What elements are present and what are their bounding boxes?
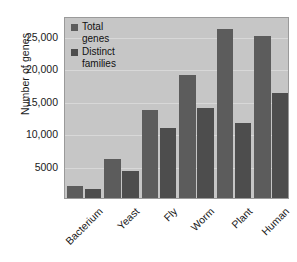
- bar: [197, 108, 214, 198]
- legend-entry: Distinct families: [71, 46, 116, 69]
- bar: [235, 123, 252, 198]
- x-tick-label-fly: Fly: [161, 205, 179, 223]
- bar: [179, 75, 196, 199]
- bar-group: [215, 18, 253, 198]
- bar: [160, 128, 177, 198]
- plot-area: Total genesDistinct families: [64, 17, 289, 199]
- y-tick-label-10000: 10,000: [26, 128, 58, 140]
- legend-label: Total genes: [82, 21, 109, 44]
- bar: [217, 29, 234, 198]
- x-tick-label-yeast: Yeast: [115, 205, 142, 232]
- bar-group: [140, 18, 178, 198]
- legend-swatch-icon: [71, 24, 78, 31]
- bar: [85, 189, 102, 198]
- legend-swatch-icon: [71, 49, 78, 56]
- bar: [67, 186, 84, 198]
- y-tick-label-5000: 5000: [35, 161, 58, 173]
- x-tick-label-plant: Plant: [229, 205, 254, 230]
- bar: [122, 171, 139, 198]
- bar-group: [253, 18, 290, 198]
- bar: [142, 110, 159, 198]
- x-tick-label-worm: Worm: [188, 205, 216, 233]
- bar: [104, 159, 121, 198]
- x-axis-tick-labels: BacteriumYeastFlyWormPlantHuman: [64, 199, 289, 262]
- y-axis-tick-labels: 500010,00015,00020,00025,000: [0, 0, 62, 262]
- chart-legend: Total genesDistinct families: [71, 21, 116, 71]
- x-tick-label-human: Human: [259, 205, 291, 237]
- x-tick-label-bacterium: Bacterium: [63, 205, 105, 247]
- bar: [254, 36, 271, 199]
- bar: [272, 93, 289, 198]
- legend-label: Distinct families: [82, 46, 116, 69]
- legend-entry: Total genes: [71, 21, 116, 44]
- y-tick-label-25000: 25,000: [26, 31, 58, 43]
- y-tick-label-15000: 15,000: [26, 96, 58, 108]
- y-tick-label-20000: 20,000: [26, 63, 58, 75]
- bar-chart-figure: Number of genes 500010,00015,00020,00025…: [0, 0, 297, 262]
- bar-group: [178, 18, 216, 198]
